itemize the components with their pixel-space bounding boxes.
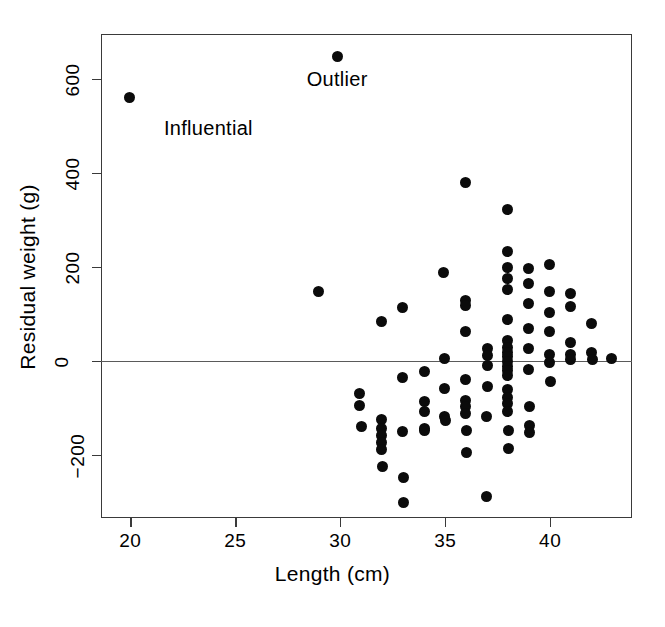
- data-point: [460, 300, 471, 311]
- data-point-influential: [124, 92, 135, 103]
- data-point: [397, 426, 408, 437]
- data-point: [419, 406, 430, 417]
- data-point: [481, 491, 492, 502]
- data-point: [356, 421, 367, 432]
- data-point: [502, 262, 513, 273]
- data-point: [606, 353, 617, 364]
- y-tick-label: −200: [56, 445, 101, 467]
- data-point: [439, 383, 450, 394]
- data-point: [502, 284, 513, 295]
- data-point: [354, 388, 365, 399]
- data-point-outlier: [332, 51, 343, 62]
- data-point: [503, 425, 514, 436]
- data-point: [523, 343, 534, 354]
- data-point: [438, 267, 449, 278]
- annotation-influential: Influential: [164, 117, 253, 140]
- data-point: [565, 354, 576, 365]
- data-point: [439, 353, 450, 364]
- annotation-outlier: Outlier: [307, 68, 368, 91]
- data-point: [461, 425, 472, 436]
- data-point: [460, 408, 471, 419]
- data-point: [523, 323, 534, 334]
- y-tick-label: 600: [56, 69, 89, 91]
- y-tick: [92, 79, 101, 80]
- data-point: [398, 472, 409, 483]
- data-point: [523, 263, 534, 274]
- data-point: [502, 314, 513, 325]
- y-tick: [92, 267, 101, 268]
- x-tick: [550, 518, 551, 527]
- data-point: [419, 425, 430, 436]
- data-point: [376, 316, 387, 327]
- x-tick-label: 20: [119, 530, 141, 552]
- data-point: [419, 366, 430, 377]
- data-point: [502, 204, 513, 215]
- data-point: [544, 326, 555, 337]
- data-point: [440, 415, 451, 426]
- x-tick: [130, 518, 131, 527]
- data-point: [586, 318, 597, 329]
- data-point: [376, 444, 387, 455]
- data-point: [482, 360, 493, 371]
- data-point: [313, 286, 324, 297]
- data-point: [502, 406, 513, 417]
- data-point: [397, 372, 408, 383]
- data-point: [460, 374, 471, 385]
- data-point: [482, 381, 493, 392]
- y-tick-label: 0: [56, 351, 67, 373]
- data-point: [523, 278, 534, 289]
- data-point: [524, 427, 535, 438]
- data-point: [460, 177, 471, 188]
- data-point: [544, 259, 555, 270]
- data-point: [544, 357, 555, 368]
- data-point: [565, 288, 576, 299]
- data-point: [398, 497, 409, 508]
- x-tick: [235, 518, 236, 527]
- x-tick-label: 35: [434, 530, 456, 552]
- x-tick: [340, 518, 341, 527]
- data-point: [481, 411, 492, 422]
- data-point: [397, 302, 408, 313]
- data-point: [502, 273, 513, 284]
- data-point: [377, 461, 388, 472]
- data-point: [544, 286, 555, 297]
- data-point: [523, 298, 534, 309]
- scatter-plot-figure: 2025303540−2000200400600 Length (cm) Res…: [0, 0, 665, 627]
- data-point: [587, 354, 598, 365]
- y-axis-label: Residual weight (g): [16, 127, 40, 427]
- x-tick-label: 40: [539, 530, 561, 552]
- y-tick-label: 200: [56, 257, 89, 279]
- data-point: [544, 307, 555, 318]
- data-point: [502, 246, 513, 257]
- y-tick: [92, 361, 101, 362]
- x-tick: [445, 518, 446, 527]
- data-point: [545, 376, 556, 387]
- data-point: [565, 337, 576, 348]
- data-point: [524, 401, 535, 412]
- x-tick-label: 25: [224, 530, 246, 552]
- data-point: [565, 301, 576, 312]
- data-point: [523, 364, 534, 375]
- data-point: [502, 370, 513, 381]
- data-point: [503, 443, 514, 454]
- data-point: [354, 400, 365, 411]
- plot-area: [101, 34, 632, 518]
- data-point: [461, 447, 472, 458]
- x-axis-label: Length (cm): [0, 562, 665, 586]
- data-point: [460, 326, 471, 337]
- y-tick-label: 400: [56, 163, 89, 185]
- y-tick: [92, 173, 101, 174]
- x-tick-label: 30: [329, 530, 351, 552]
